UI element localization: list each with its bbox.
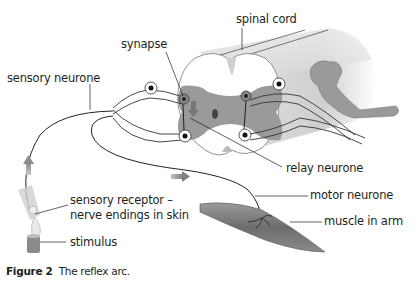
relay-cell-body-upper-left (179, 94, 189, 104)
label-synapse: synapse (121, 38, 167, 51)
label-relay-neurone: relay neurone (286, 162, 363, 175)
label-motor-neurone: motor neurone (310, 189, 393, 202)
label-spinal-cord: spinal cord (236, 13, 297, 26)
label-muscle-in-arm: muscle in arm (324, 215, 403, 228)
sensory-cell-body-left (145, 82, 157, 94)
muscle (200, 203, 325, 252)
label-sensory-neurone: sensory neurone (7, 72, 100, 85)
impulse-arrow-right (171, 171, 190, 182)
motor-cell-body-left (179, 130, 191, 142)
sensory-receptor (18, 185, 40, 220)
figure-caption: Figure 2 The reflex arc. (6, 265, 130, 277)
stimulus-candle (27, 217, 40, 253)
relay-cell-body-upper-right (241, 91, 251, 101)
sensory-cell-body-right (273, 78, 285, 90)
label-stimulus: stimulus (70, 236, 117, 249)
label-sensory-receptor-line2: nerve endings in skin (70, 209, 189, 222)
label-sensory-receptor-line1: sensory receptor – (70, 194, 173, 207)
figure-caption-text: The reflex arc. (59, 265, 130, 277)
reflex-arc-diagram (0, 0, 417, 285)
motor-cell-body-right (239, 129, 251, 141)
impulse-arrow-up (23, 155, 34, 175)
figure-number: Figure 2 (6, 265, 53, 277)
